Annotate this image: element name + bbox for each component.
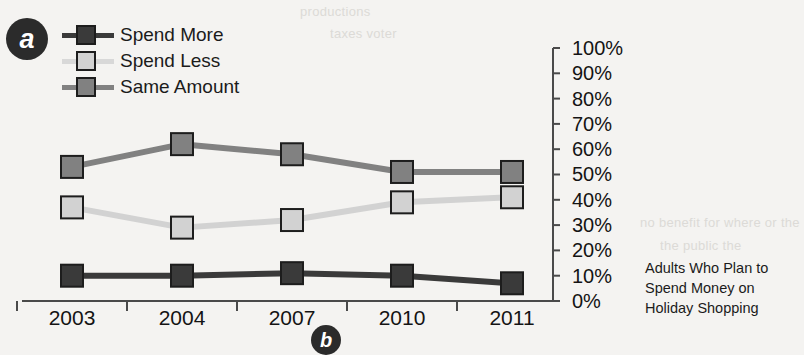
y-axis-tick-label: 20% [572,238,623,263]
x-axis-tick-label: 2011 [472,306,552,330]
line-chart-plot [0,0,560,320]
y-axis-tick-label: 0% [572,289,623,314]
x-axis-tick-label: 2007 [252,306,332,330]
y-axis-tick-label: 30% [572,213,623,238]
data-point-marker[interactable] [501,186,523,208]
data-point-marker[interactable] [501,161,523,183]
background-text-4: the public the [660,238,742,253]
data-point-marker[interactable] [281,209,303,231]
data-point-marker[interactable] [61,156,83,178]
y-axis-tick-label: 90% [572,61,623,86]
data-point-marker[interactable] [391,161,413,183]
data-point-marker[interactable] [61,265,83,287]
caption-line-2: Spend Money on [645,278,804,298]
y-axis-labels: 100%90%80%70%60%50%40%30%20%10%0% [572,36,623,314]
x-axis-tick-label: 2004 [142,306,222,330]
data-point-marker[interactable] [281,262,303,284]
x-axis-tick-label: 2003 [32,306,112,330]
data-point-marker[interactable] [391,191,413,213]
y-axis-tick-label: 100% [572,36,623,61]
chart-caption: Adults Who Plan to Spend Money on Holida… [645,258,804,318]
background-text-3: no benefit for where or the [640,215,800,230]
data-point-marker[interactable] [171,217,193,239]
data-point-marker[interactable] [501,272,523,294]
y-axis-tick-label: 40% [572,188,623,213]
data-point-marker[interactable] [171,133,193,155]
y-axis-tick-label: 70% [572,112,623,137]
data-point-marker[interactable] [281,143,303,165]
y-axis-tick-label: 80% [572,87,623,112]
data-point-marker[interactable] [391,265,413,287]
chart-svg [0,0,560,320]
series-layer [61,133,523,294]
data-point-marker[interactable] [171,265,193,287]
data-point-marker[interactable] [61,196,83,218]
caption-line-3: Holiday Shopping [645,298,804,318]
caption-line-1: Adults Who Plan to [645,258,804,278]
x-axis-tick-label: 2010 [362,306,442,330]
y-axis-tick-label: 10% [572,264,623,289]
y-axis-tick-label: 50% [572,162,623,187]
y-axis-tick-label: 60% [572,137,623,162]
